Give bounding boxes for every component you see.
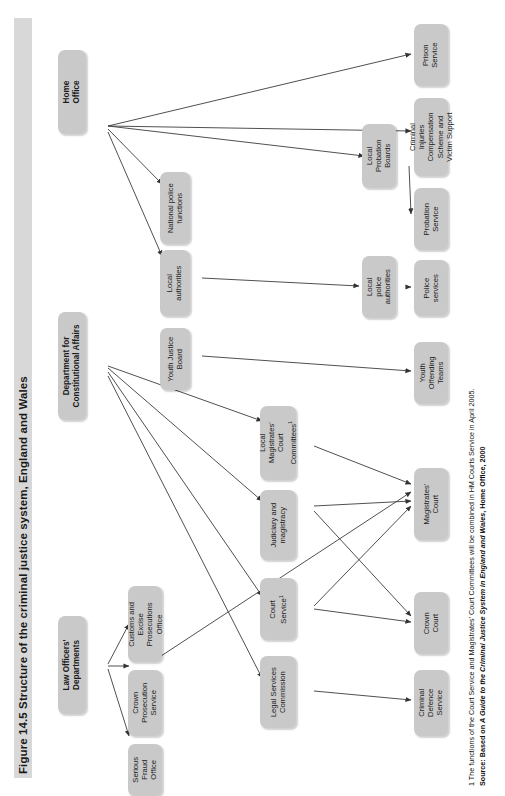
node-home-office[interactable]: HomeOffice [58, 50, 86, 134]
node-legal-services-commission-label: Legal ServicesCommission [269, 667, 287, 717]
node-local-magistrates-court-committees-label: LocalMagistrates'CourtCommittees1 [258, 421, 297, 465]
node-youth-offending-teams-label: YouthOffendingTeams [417, 357, 445, 390]
node-probation-service[interactable]: ProbationService [414, 188, 448, 250]
footnote-marker: 1 [287, 421, 293, 424]
node-serious-fraud-office-label: SeriousFraudOffice [131, 757, 159, 783]
node-criminal-defence-service[interactable]: CriminalDefenceService [414, 670, 448, 736]
node-police-services-label: Policeservices [422, 274, 440, 302]
node-law-officers[interactable]: Law Officers'Departments [58, 616, 86, 714]
node-criminal-injuries-label: CriminalInjuriesCompensationScheme andVi… [408, 112, 454, 161]
node-national-police-functions-label: National policefunctions [166, 183, 184, 233]
node-police-services[interactable]: Policeservices [414, 260, 448, 316]
node-probation-service-label: ProbationService [422, 203, 440, 236]
node-judiciary-and-magistracy[interactable]: Judiciary andmagistracy [260, 490, 296, 560]
node-dca-label: Department forConstitutional Affairs [62, 325, 82, 408]
node-local-authorities[interactable]: Localauthorities [160, 250, 190, 316]
node-local-police-authorities[interactable]: Localpoliceauthorities [362, 256, 396, 318]
node-magistrates-court[interactable]: Magistrates'Court [414, 468, 448, 540]
node-customs-excise-prosecutions-office[interactable]: Customs andExciseProsecutionsOffice [128, 586, 162, 662]
node-national-police-functions[interactable]: National policefunctions [160, 172, 190, 244]
node-law-officers-label: Law Officers'Departments [62, 639, 82, 690]
node-crown-court[interactable]: CrownCourt [414, 592, 448, 654]
footnote: 1 The functions of the Court Service and… [466, 16, 500, 786]
node-customs-excise-prosecutions-office-label: Customs andExciseProsecutionsOffice [127, 602, 164, 647]
node-criminal-injuries[interactable]: CriminalInjuriesCompensationScheme andVi… [414, 98, 448, 176]
footnote-source-title: A Guide to the Criminal Justice System i… [478, 513, 487, 723]
node-serious-fraud-office[interactable]: SeriousFraudOffice [128, 744, 162, 796]
node-local-probation-boards-label: LocalProbationBoards [365, 140, 393, 173]
node-youth-justice-board-label: Youth JusticeBoard [166, 337, 184, 382]
node-home-office-label: HomeOffice [62, 80, 82, 103]
footnote-source-suffix: , Home Office, 2000 [478, 446, 487, 512]
footnote-marker: 1 [278, 595, 284, 598]
node-court-service[interactable]: CourtService1 [260, 578, 296, 640]
node-criminal-defence-service-label: CriminalDefenceService [417, 689, 445, 717]
node-local-police-authorities-label: Localpoliceauthorities [365, 269, 393, 304]
footnote-line-2: Source: Based on A Guide to the Criminal… [477, 16, 488, 786]
node-local-probation-boards[interactable]: LocalProbationBoards [362, 124, 396, 188]
node-judiciary-and-magistracy-label: Judiciary andmagistracy [269, 503, 287, 548]
node-local-magistrates-court-committees[interactable]: LocalMagistrates'CourtCommittees1 [260, 406, 296, 480]
node-youth-justice-board[interactable]: Youth JusticeBoard [160, 328, 190, 390]
node-prison-service-label: PrisonService [422, 42, 440, 67]
node-crown-prosecution-service[interactable]: CrownProsecutionService [128, 670, 162, 736]
connector-lines [34, 6, 470, 788]
node-legal-services-commission[interactable]: Legal ServicesCommission [260, 656, 296, 728]
page-title: Figure 14.5 Structure of the criminal ju… [14, 18, 32, 778]
node-crown-prosecution-service-label: CrownProsecutionService [131, 683, 159, 723]
diagram-canvas: HomeOffice Department forConstitutional … [34, 6, 470, 788]
node-court-service-label: CourtService1 [268, 595, 289, 623]
node-magistrates-court-label: Magistrates'Court [422, 484, 440, 525]
node-crown-court-label: CrownCourt [422, 612, 440, 634]
node-local-authorities-label: Localauthorities [166, 265, 184, 300]
node-dca[interactable]: Department forConstitutional Affairs [58, 312, 86, 420]
node-prison-service[interactable]: PrisonService [414, 24, 448, 86]
footnote-source-prefix: Source: Based on [478, 723, 487, 786]
node-youth-offending-teams[interactable]: YouthOffendingTeams [414, 342, 448, 404]
